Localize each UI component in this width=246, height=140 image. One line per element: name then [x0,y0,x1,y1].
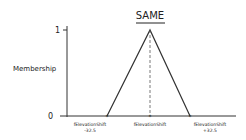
y-tick-label-1: 1 [55,26,60,35]
x-tick-label-right-1: fElevationShift [194,122,227,127]
y-tick-label-0: 0 [48,112,53,121]
membership-diagram: SAME 1 0 Membership * * * fElevationShif… [0,0,246,140]
x-tick-mark-center: * [149,113,152,120]
chart-title: SAME [136,10,164,21]
y-axis-label: Membership [13,65,57,73]
x-tick-label-center: fElevationShift [134,122,167,127]
x-tick-label-left-1: fElevationShift [74,122,107,127]
x-tick-mark-right: * [189,113,192,120]
x-tick-mark-left: * [106,113,109,120]
x-tick-label-right-2: +32.5 [203,128,217,133]
x-tick-label-left-2: -32.5 [84,128,96,133]
membership-triangle [107,30,190,116]
